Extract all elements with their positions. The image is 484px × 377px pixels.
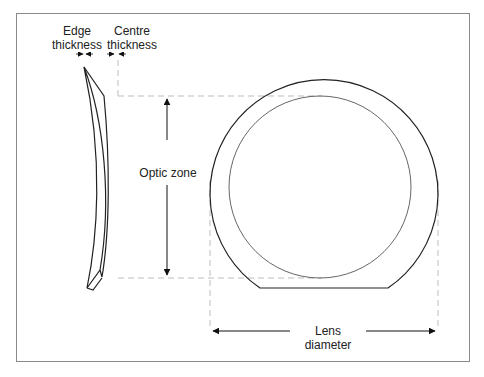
lens-cross-section bbox=[84, 67, 108, 290]
optic-zone-label: Optic zone bbox=[136, 166, 200, 180]
edge-thickness-label: Edge thickness bbox=[52, 24, 102, 52]
centre-thickness-label: Centre thickness bbox=[104, 24, 160, 52]
optic-zone-circle bbox=[229, 96, 411, 278]
lens-diameter-label: Lens diameter bbox=[290, 324, 366, 352]
centre-label-line1: Centre bbox=[104, 24, 160, 38]
lens-outer-outline bbox=[210, 80, 438, 288]
edge-label-line2: thickness bbox=[52, 38, 102, 52]
lens-diagram bbox=[0, 0, 484, 377]
centre-label-line2: thickness bbox=[104, 38, 160, 52]
edge-label-line1: Edge bbox=[52, 24, 102, 38]
